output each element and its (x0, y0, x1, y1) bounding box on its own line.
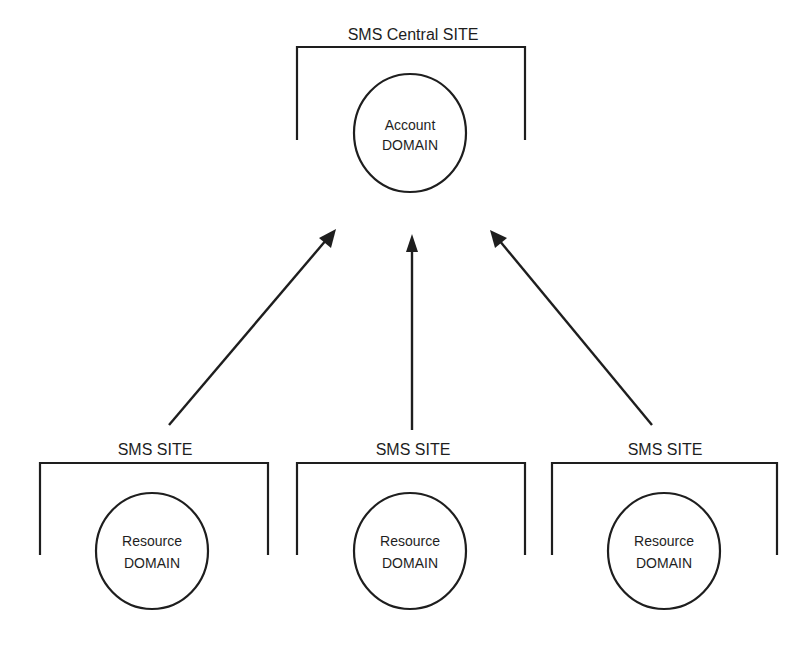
arrow-right-site-to-central (490, 230, 652, 425)
central-site-label: SMS Central SITE (348, 26, 479, 43)
arrow-middle-site-to-central (406, 234, 418, 430)
sms-site-3: SMS SITE Resource DOMAIN (552, 441, 777, 609)
resource-domain-1-label-line1: Resource (122, 533, 182, 549)
resource-domain-3-label-line2: DOMAIN (636, 555, 692, 571)
resource-domain-2-node (354, 493, 466, 609)
sms-hierarchy-diagram: SMS Central SITE Account DOMAIN SMS SITE… (0, 0, 811, 649)
site-1-label: SMS SITE (118, 441, 193, 458)
site-2-label: SMS SITE (376, 441, 451, 458)
site-3-label: SMS SITE (628, 441, 703, 458)
account-domain-label-line1: Account (385, 117, 436, 133)
resource-domain-3-label-line1: Resource (634, 533, 694, 549)
account-domain-node (354, 74, 466, 192)
arrow-left-site-to-central (169, 229, 336, 425)
sms-site-2: SMS SITE Resource DOMAIN (297, 441, 525, 609)
resource-domain-3-node (608, 493, 720, 609)
sms-site-1: SMS SITE Resource DOMAIN (40, 441, 268, 609)
central-site: SMS Central SITE Account DOMAIN (297, 26, 525, 192)
resource-domain-2-label-line2: DOMAIN (382, 555, 438, 571)
trust-arrows (169, 229, 652, 430)
arrowhead-icon (406, 234, 418, 252)
resource-domain-2-label-line1: Resource (380, 533, 440, 549)
resource-domain-1-label-line2: DOMAIN (124, 555, 180, 571)
resource-domain-1-node (96, 493, 208, 609)
account-domain-label-line2: DOMAIN (382, 137, 438, 153)
